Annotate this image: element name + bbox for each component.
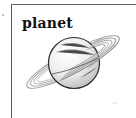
saturn-icon bbox=[0, 0, 136, 118]
